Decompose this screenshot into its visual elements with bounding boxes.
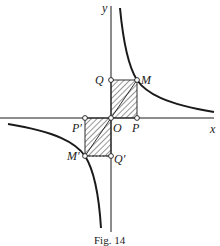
label-P: P (131, 121, 140, 135)
figure-caption: Fig. 14 (94, 234, 126, 246)
point-O (109, 116, 114, 121)
label-Qprime: Q′ (114, 152, 126, 166)
x-axis-label: x (209, 122, 216, 136)
label-Q: Q (95, 73, 104, 87)
label-Mprime: M′ (66, 149, 80, 163)
point-Mprime (83, 154, 88, 159)
point-Q (109, 78, 114, 83)
label-Pprime: P′ (71, 121, 82, 135)
point-P (135, 116, 140, 121)
y-axis-label: y (101, 1, 108, 15)
point-Pprime (83, 116, 88, 121)
label-O: O (113, 121, 122, 135)
label-M: M (140, 73, 152, 87)
point-Qprime (109, 154, 114, 159)
point-M (135, 78, 140, 83)
hyperbola-diagram: y x Q M O P P′ M′ Q′ Fig. 14 (0, 0, 220, 246)
